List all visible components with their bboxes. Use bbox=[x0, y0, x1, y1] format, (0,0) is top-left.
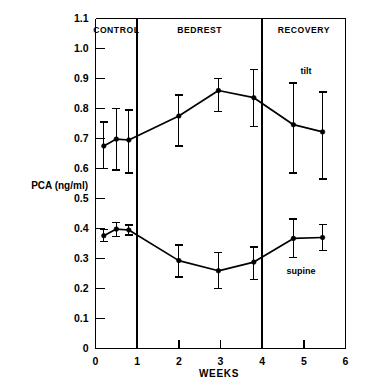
y-tick-label: 1.1 bbox=[74, 12, 89, 24]
series-labels-group: tiltsupine bbox=[286, 66, 315, 276]
y-tick-label: 0.6 bbox=[74, 162, 89, 174]
series-supine bbox=[100, 219, 327, 289]
data-point-marker bbox=[114, 137, 119, 142]
x-tick-label: 0 bbox=[93, 355, 99, 367]
phase-label-bedrest: BEDREST bbox=[177, 25, 222, 35]
data-point-marker bbox=[320, 235, 325, 240]
data-point-marker bbox=[102, 144, 107, 149]
data-point-marker bbox=[291, 122, 296, 127]
data-point-marker bbox=[216, 88, 221, 93]
x-tick-label: 6 bbox=[343, 355, 349, 367]
data-point-marker bbox=[177, 258, 182, 263]
y-tick-label: 1.0 bbox=[74, 42, 89, 54]
x-tick-label: 3 bbox=[218, 355, 224, 367]
y-tick-label: 0.3 bbox=[74, 252, 89, 264]
y-tick-label: 0.5 bbox=[74, 192, 89, 204]
y-tick-label: 0.4 bbox=[74, 222, 89, 234]
data-point-marker bbox=[216, 269, 221, 274]
x-tick-label: 4 bbox=[259, 355, 265, 367]
data-point-marker bbox=[291, 236, 296, 241]
y-axis-title: PCA (ng/ml) bbox=[31, 180, 88, 191]
y-tick-label: 0.2 bbox=[74, 282, 89, 294]
data-point-marker bbox=[102, 233, 107, 238]
x-tick-label: 2 bbox=[176, 355, 182, 367]
error-bar bbox=[175, 95, 183, 146]
y-tick-label: 0.9 bbox=[74, 72, 89, 84]
data-series-group bbox=[100, 70, 327, 289]
data-point-marker bbox=[177, 114, 182, 119]
error-bar bbox=[214, 79, 222, 112]
y-tick-label: 0 bbox=[83, 342, 89, 354]
data-point-marker bbox=[252, 95, 257, 100]
phase-dividers-group bbox=[137, 19, 262, 349]
y-tick-label: 0.1 bbox=[74, 312, 89, 324]
x-axis-title: WEEKS bbox=[199, 368, 239, 379]
x-tick-label: 5 bbox=[301, 355, 307, 367]
series-tilt bbox=[100, 70, 327, 180]
phase-label-recovery: RECOVERY bbox=[278, 25, 330, 35]
series-annotation-supine: supine bbox=[286, 266, 315, 276]
x-axis-ticks: 0123456 bbox=[93, 340, 349, 367]
phase-labels-group: CONTROLBEDRESTRECOVERY bbox=[93, 25, 330, 35]
error-bar bbox=[319, 92, 327, 179]
figure-root: CONTROLBEDRESTRECOVERY 00.10.20.30.40.50… bbox=[0, 0, 367, 390]
data-point-marker bbox=[127, 228, 132, 233]
error-bar bbox=[289, 83, 297, 173]
y-tick-label: 0.7 bbox=[74, 132, 89, 144]
phase-label-control: CONTROL bbox=[93, 25, 139, 35]
x-tick-label: 1 bbox=[134, 355, 140, 367]
data-point-marker bbox=[114, 227, 119, 232]
data-point-marker bbox=[127, 138, 132, 143]
data-point-marker bbox=[252, 260, 257, 265]
data-point-marker bbox=[320, 130, 325, 135]
series-annotation-tilt: tilt bbox=[300, 66, 311, 76]
y-tick-label: 0.8 bbox=[74, 102, 89, 114]
pca-line-chart: CONTROLBEDRESTRECOVERY 00.10.20.30.40.50… bbox=[0, 0, 367, 390]
